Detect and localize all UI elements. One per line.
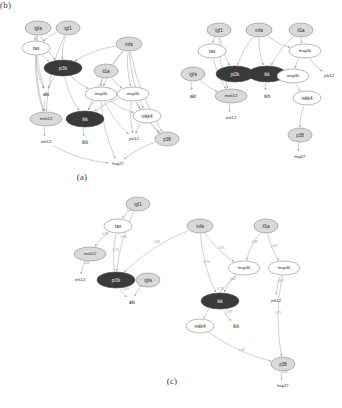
node-map3k1[interactable]: map3k (289, 44, 321, 58)
node-mek12[interactable]: mek12 (215, 89, 247, 103)
node-ikb[interactable]: ikb (264, 94, 270, 99)
node-tnfa[interactable]: tnfa (116, 37, 142, 51)
node-label: igfa (189, 72, 197, 77)
node-ras[interactable]: ras (22, 41, 50, 55)
edge (125, 231, 189, 272)
node-hsp27[interactable]: hsp27 (112, 161, 124, 166)
edge (136, 102, 140, 109)
node-p38[interactable]: p38 (155, 132, 179, 146)
node-label: map3k (95, 91, 108, 96)
panel-b-graph: igf1tnfail1arasmap3kigfapi3kikkmap3kjnk1… (183, 6, 342, 176)
node-label: il1a (262, 224, 270, 229)
node-akt[interactable]: akt (190, 94, 197, 99)
edge-label: 0.94 (204, 260, 210, 264)
edge (229, 104, 230, 112)
node-jnk12[interactable]: jnk12 (128, 136, 140, 141)
edge (265, 83, 266, 90)
edge (105, 102, 129, 134)
node-label: igfa (34, 26, 42, 31)
node-erk12[interactable]: erk12 (41, 139, 52, 144)
node-label: mek12 (225, 93, 238, 98)
node-igfa[interactable]: igfa (181, 67, 205, 81)
panel-a: igfaigf1rastnfapi3kil1aaktmap3kmap3kmek1… (6, 6, 188, 176)
node-mkk4[interactable]: mkk4 (293, 91, 321, 105)
node-ikk[interactable]: ikk (66, 111, 104, 127)
edge-label: 0.88 (154, 240, 160, 244)
node-label: il1a (297, 28, 305, 33)
edge (259, 38, 264, 65)
edge-label: 0.71 (275, 311, 281, 315)
edge (124, 142, 155, 159)
panel-c-caption: (c) (152, 376, 192, 386)
node-ikb[interactable]: ikb (82, 140, 88, 145)
node-akt[interactable]: akt (43, 92, 50, 97)
node-p38[interactable]: p38 (271, 357, 295, 371)
node-map3k2[interactable]: map3k (117, 87, 149, 101)
node-label: erk12 (41, 139, 52, 144)
node-label: mek12 (84, 251, 97, 256)
edge (83, 128, 84, 136)
node-mkk4[interactable]: mkk4 (133, 109, 161, 123)
node-map3k1[interactable]: map3k (85, 87, 117, 101)
node-erk12[interactable]: erk12 (226, 115, 237, 120)
edge (71, 76, 88, 88)
node-akt[interactable]: akt (129, 300, 136, 305)
edge (298, 143, 299, 151)
edge (65, 77, 79, 110)
node-pi3k[interactable]: pi3k (97, 272, 135, 288)
edge (268, 36, 290, 47)
edge (246, 233, 260, 260)
edge (301, 38, 302, 43)
edge (295, 59, 299, 69)
node-label: mek12 (40, 116, 53, 121)
node-label: tnfa (196, 224, 204, 229)
node-igf1[interactable]: igf1 (126, 197, 150, 211)
node-map3k2[interactable]: map3k (268, 261, 300, 275)
node-hsp27[interactable]: hsp27 (277, 383, 289, 388)
edge (54, 146, 109, 163)
node-map3k1[interactable]: map3k (228, 261, 260, 275)
panel-c: 1.000.980.960.720.880.940.910.990.870.64… (48, 196, 320, 401)
node-label: mkk4 (195, 324, 206, 329)
node-label: igfa (144, 278, 152, 283)
node-label: ikb (82, 140, 88, 145)
node-il1a[interactable]: il1a (289, 23, 313, 37)
node-il1a[interactable]: il1a (94, 64, 118, 78)
node-label: igf1 (134, 202, 142, 207)
edge-label: 0.97 (226, 310, 232, 314)
edge (136, 123, 141, 133)
node-ras[interactable]: ras (104, 219, 132, 233)
edge (44, 100, 45, 111)
node-ikk[interactable]: ikk (201, 293, 239, 309)
node-mek12[interactable]: mek12 (74, 247, 106, 261)
node-label: hsp27 (294, 154, 306, 159)
node-p38[interactable]: p38 (288, 128, 312, 142)
node-label: map3k (127, 91, 140, 96)
node-tnfa[interactable]: tnfa (246, 23, 272, 37)
node-hsp27[interactable]: hsp27 (294, 154, 306, 159)
node-igf1[interactable]: igf1 (56, 21, 80, 35)
node-label: igf1 (64, 26, 72, 31)
node-mek12[interactable]: mek12 (30, 112, 62, 126)
node-erk12[interactable]: erk12 (75, 277, 86, 282)
node-label: jnk12 (323, 73, 335, 78)
node-pi3k[interactable]: pi3k (44, 60, 82, 76)
node-tnfa[interactable]: tnfa (187, 219, 213, 233)
node-igf1[interactable]: igf1 (207, 23, 231, 37)
edge-label: 0.91 (219, 246, 225, 250)
node-jnk12[interactable]: jnk12 (270, 298, 282, 303)
node-mkk4[interactable]: mkk4 (186, 319, 214, 333)
node-label: akt (129, 300, 136, 305)
node-il1a[interactable]: il1a (254, 219, 278, 233)
node-ikb[interactable]: ikb (233, 324, 239, 329)
edge-label: 0.69 (239, 348, 245, 352)
node-igfa[interactable]: igfa (136, 273, 160, 287)
node-label: pi3k (231, 72, 240, 77)
node-igfa[interactable]: igfa (25, 21, 51, 35)
node-jnk12[interactable]: jnk12 (323, 73, 335, 78)
node-ras[interactable]: ras (198, 44, 226, 58)
edge-layer: 1.000.980.960.720.880.940.910.990.870.64… (81, 208, 288, 380)
node-map3k2[interactable]: map3k (277, 69, 309, 83)
edge (89, 101, 95, 110)
node-label: igf1 (215, 28, 223, 33)
